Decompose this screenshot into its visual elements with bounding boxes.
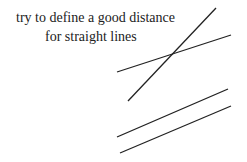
lower-parallel-line xyxy=(120,106,231,153)
lines-drawing xyxy=(0,0,247,162)
shallow-intersecting-line xyxy=(117,35,231,72)
upper-parallel-line xyxy=(117,89,228,137)
diagram-canvas: try to define a good distance for straig… xyxy=(0,0,247,162)
